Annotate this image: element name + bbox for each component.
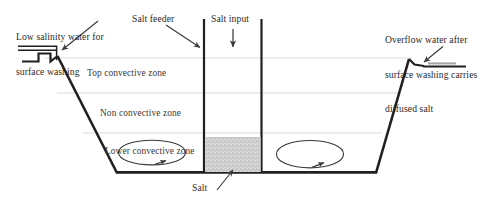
low-salinity-inlet-label: Low salinity water for surface washing: [16, 8, 104, 100]
salt-feeder-label: Salt feeder: [132, 13, 174, 25]
salt-input-label: Salt input: [211, 13, 249, 25]
right-circulation-loop: [277, 141, 344, 168]
salt-pile-label: Salt: [192, 182, 207, 194]
solar-pond-diagram: Low salinity water for surface washing S…: [0, 0, 491, 207]
zone-label-top-convective: Top convective zone: [87, 68, 166, 80]
overflow-label-line3: diffused salt: [385, 103, 477, 115]
right-circulation-ellipse: [277, 141, 344, 168]
overflow-label-line1: Overflow water after: [385, 34, 477, 46]
salt-pile: [205, 137, 261, 172]
low-salinity-inlet-label-line1: Low salinity water for: [16, 31, 104, 43]
feeder-pointer-arrow: [166, 25, 200, 48]
overflow-label-line2: surface washing carries: [385, 69, 477, 81]
zone-label-lower-convective: Lower convective zone: [105, 146, 195, 158]
overflow-label: Overflow water after surface washing car…: [385, 11, 477, 138]
zone-label-non-convective: Non convective zone: [100, 108, 181, 120]
